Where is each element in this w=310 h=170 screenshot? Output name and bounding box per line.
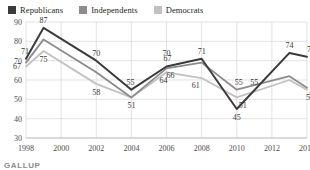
legend-swatch-republicans [8, 6, 16, 14]
legend-item-democrats: Democrats [154, 6, 204, 15]
svg-text:51: 51 [239, 101, 247, 110]
svg-text:51: 51 [127, 101, 135, 110]
svg-text:72: 72 [307, 45, 310, 54]
svg-text:64: 64 [160, 76, 168, 85]
svg-text:58: 58 [92, 88, 100, 97]
source-label: GALLUP [4, 161, 41, 170]
svg-text:2014: 2014 [299, 144, 310, 153]
y-axis-ticks: 30405060708090 [14, 18, 22, 143]
svg-text:2004: 2004 [123, 144, 139, 153]
legend-label-democrats: Democrats [166, 6, 204, 15]
svg-text:2002: 2002 [88, 144, 104, 153]
svg-text:67: 67 [13, 62, 21, 71]
svg-text:55: 55 [126, 78, 134, 87]
legend-item-independents: Independents [79, 6, 138, 15]
svg-text:75: 75 [40, 55, 48, 64]
chart-legend: Republicans Independents Democrats [8, 3, 219, 17]
svg-text:1998: 1998 [18, 144, 34, 153]
svg-text:90: 90 [14, 18, 22, 27]
line-chart-svg: 30405060708090 1998200020022004200620082… [0, 16, 310, 170]
svg-text:71: 71 [198, 47, 206, 56]
svg-text:55: 55 [250, 78, 258, 87]
svg-text:66: 66 [167, 71, 175, 80]
svg-text:55: 55 [306, 93, 310, 102]
legend-label-independents: Independents [91, 6, 138, 15]
svg-text:2010: 2010 [229, 144, 245, 153]
svg-text:30: 30 [14, 134, 22, 143]
legend-item-republicans: Republicans [8, 6, 63, 15]
svg-text:2012: 2012 [264, 144, 280, 153]
svg-text:2008: 2008 [194, 144, 210, 153]
svg-text:45: 45 [233, 113, 241, 122]
svg-text:50: 50 [14, 95, 22, 104]
svg-text:61: 61 [192, 81, 200, 90]
svg-text:55: 55 [235, 78, 243, 87]
svg-text:60: 60 [14, 76, 22, 85]
legend-swatch-democrats [154, 6, 162, 14]
svg-text:70: 70 [92, 49, 100, 58]
svg-text:40: 40 [14, 115, 22, 124]
svg-text:87: 87 [40, 16, 48, 25]
svg-text:80: 80 [14, 37, 22, 46]
legend-swatch-independents [79, 6, 87, 14]
plot-area: 30405060708090 1998200020022004200620082… [0, 16, 310, 170]
svg-text:2006: 2006 [159, 144, 175, 153]
svg-text:74: 74 [285, 41, 293, 50]
svg-text:2000: 2000 [53, 144, 69, 153]
x-axis-ticks: 199820002002200420062008201020122014 [18, 144, 310, 153]
svg-text:71: 71 [21, 47, 29, 56]
svg-text:70: 70 [163, 49, 171, 58]
legend-label-republicans: Republicans [20, 6, 63, 15]
chart-container: Republicans Independents Democrats 30405… [0, 0, 310, 170]
